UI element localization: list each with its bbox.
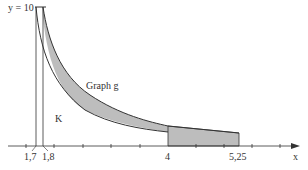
x-axis-label: x — [293, 152, 298, 162]
tick-label-5-25: 5,25 — [229, 152, 247, 162]
tick-label-4: 4 — [165, 152, 170, 162]
tick-label-1-7: 1,7 — [24, 152, 37, 162]
graph-diagram — [0, 0, 308, 170]
tick-label-1-8: 1,8 — [42, 152, 55, 162]
graph-g-label: Graph g — [86, 81, 119, 91]
region-k-label: K — [55, 114, 62, 124]
y-value-label: y = 10 — [8, 3, 34, 13]
x-axis-arrow-icon — [291, 143, 300, 149]
graph-g-curve — [43, 7, 239, 133]
